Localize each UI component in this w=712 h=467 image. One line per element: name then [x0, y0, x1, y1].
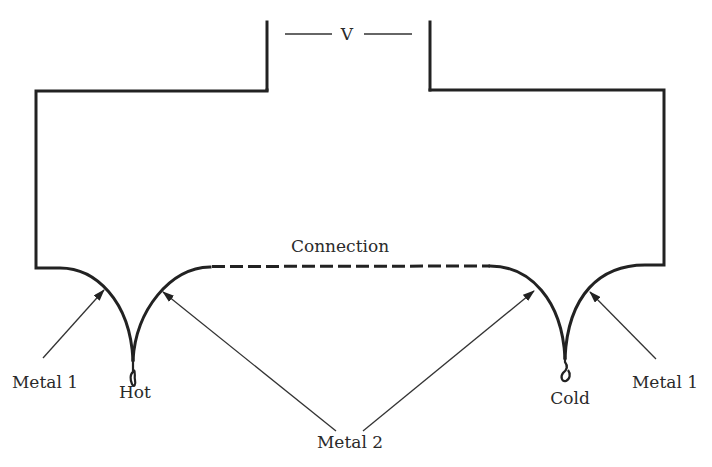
metal2-label: Metal 2 [317, 432, 383, 452]
connection-label: Connection [291, 236, 389, 256]
metal1-right-label: Metal 1 [632, 372, 698, 392]
cold-label: Cold [550, 388, 590, 408]
voltage-label: V [340, 24, 354, 44]
hot-label: Hot [119, 382, 151, 402]
metal2-left-arrow [163, 292, 336, 431]
metal1-left-wire [36, 90, 267, 360]
metal1-right-wire [430, 90, 664, 358]
cold-junction [562, 356, 570, 381]
connection-dashed-wire [212, 266, 490, 267]
voltage-terminals: V [267, 22, 430, 90]
metal2-left-wire [133, 267, 210, 360]
thermocouple-diagram: V Connection Hot Cold Metal 1 Metal 1 Me… [0, 0, 712, 467]
metal1-right-arrow [590, 292, 656, 359]
metal1-left-label: Metal 1 [12, 372, 78, 392]
metal2-right-wire [490, 266, 565, 358]
metal1-left-arrow [43, 290, 104, 358]
metal2-right-arrow [363, 291, 534, 431]
